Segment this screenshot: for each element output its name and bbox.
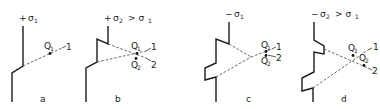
sigma-subscript: 2 <box>119 17 123 24</box>
panel-c: − σ 1 Q 1 Q 2 1 2 c <box>205 9 282 104</box>
line-2-label: 2 <box>372 66 378 76</box>
q1-subscript: 1 <box>267 44 271 51</box>
comparison-subscript: 1 <box>148 17 152 24</box>
dashed-line-1 <box>23 48 62 66</box>
dashed-line-1 <box>97 51 146 62</box>
point-q1 <box>49 52 52 55</box>
panel-caption: d <box>341 94 347 104</box>
sign-label: − <box>225 9 233 19</box>
sign-label: + <box>19 13 27 23</box>
point-q2 <box>363 64 366 67</box>
dashed-line-lower <box>216 57 251 77</box>
line-1-label: 1 <box>151 42 157 52</box>
line-1-label: 1 <box>66 42 72 52</box>
line-1-label: 1 <box>373 42 379 52</box>
sigma-subscript: 2 <box>326 13 330 20</box>
panel-caption: c <box>246 94 251 104</box>
panel-caption: a <box>40 94 46 104</box>
comparison-label: > σ <box>128 13 144 23</box>
panel-caption: b <box>115 94 121 104</box>
profile-line <box>12 26 23 102</box>
sigma-subscript: 1 <box>240 13 244 20</box>
profile-line <box>302 22 324 102</box>
panel-b: + σ 2 > σ 1 Q 1 Q 2 1 2 b <box>86 13 157 104</box>
dashed-line-upper <box>229 44 251 57</box>
line-1-label: 1 <box>276 42 282 52</box>
q2-subscript: 2 <box>267 60 271 67</box>
leader-2 <box>268 55 276 57</box>
comparison-label: > σ <box>335 9 351 19</box>
q1-subscript: 1 <box>354 47 358 54</box>
line-2-label: 2 <box>276 53 282 63</box>
panel-a: + σ 1 Q 1 1 a <box>12 13 72 104</box>
q2-subscript: 2 <box>137 64 141 71</box>
panel-d: − σ 2 > σ 1 Q 1 Q 2 1 2 d <box>302 9 379 104</box>
sign-label: − <box>311 9 319 19</box>
profile-line <box>205 22 229 102</box>
point-q1 <box>352 54 355 57</box>
q2-subscript: 2 <box>365 57 369 64</box>
point-q1 <box>136 52 139 55</box>
profile-line <box>86 26 108 102</box>
comparison-subscript: 1 <box>355 13 359 20</box>
q1-subscript: 1 <box>137 45 141 52</box>
stress-diagram: + σ 1 Q 1 1 a + σ 2 > σ 1 Q 1 Q 2 1 2 b … <box>0 0 380 109</box>
q1-subscript: 1 <box>50 45 54 52</box>
line-2-label: 2 <box>151 60 157 70</box>
sign-label: + <box>104 13 112 23</box>
sigma-subscript: 1 <box>34 17 38 24</box>
leader-1 <box>368 48 372 50</box>
